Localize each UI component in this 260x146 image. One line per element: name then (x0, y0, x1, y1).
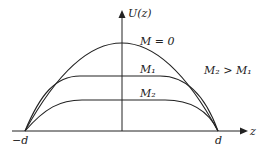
z-axis-label: z (249, 125, 256, 138)
curve-m0-label: M = 0 (139, 35, 174, 48)
relation-label: M₂ > M₁ (203, 64, 252, 77)
curve-m1-label: M₁ (139, 63, 156, 76)
z-axis-arrow-icon (240, 128, 248, 135)
left-tick-label: −d (12, 134, 28, 146)
u-axis-label: U(z) (128, 7, 152, 20)
curve-m2-label: M₂ (139, 87, 156, 100)
velocity-profile-diagram: U(z) z −d d M = 0 M₁ M₂ M₂ > M₁ (0, 0, 260, 146)
u-axis-arrow-icon (119, 10, 126, 18)
right-tick-label: d (215, 134, 222, 146)
